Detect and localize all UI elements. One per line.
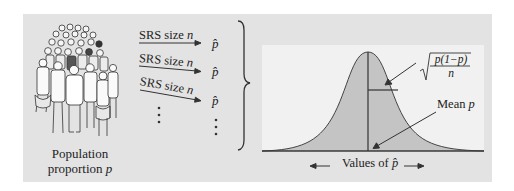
ellipsis-dots-right <box>215 119 218 136</box>
curly-brace-icon <box>238 21 250 150</box>
sample-label-1: SRS size n <box>139 29 193 42</box>
population-label: Population proportion p <box>35 146 125 176</box>
sd-formula-denominator: n <box>432 68 470 80</box>
sample-label-text: SRS size <box>139 28 184 42</box>
mean-label: Mean p <box>437 98 475 111</box>
axis-var: p̂ <box>392 156 398 170</box>
sample-result-2: p̂ <box>212 65 219 78</box>
sample-size-var: n <box>186 55 193 69</box>
axis-label: Values of p̂ <box>285 157 455 170</box>
axis-label-text: Values of <box>342 156 389 170</box>
population-var: p <box>106 161 113 176</box>
population-label-line1: Population <box>35 146 125 161</box>
sample-size-var: n <box>187 28 193 42</box>
crowd-illustration-icon <box>35 24 118 136</box>
population-label-word: proportion <box>48 161 103 176</box>
population-label-line2: proportion p <box>35 161 125 176</box>
sd-formula-numerator: p(1−p) <box>432 54 470 66</box>
sample-result-3: p̂ <box>212 94 219 107</box>
mean-label-text: Mean <box>437 97 465 111</box>
mean-var: p <box>469 97 475 111</box>
sample-result-1: p̂ <box>212 37 219 50</box>
ellipsis-dots-left <box>158 107 161 124</box>
